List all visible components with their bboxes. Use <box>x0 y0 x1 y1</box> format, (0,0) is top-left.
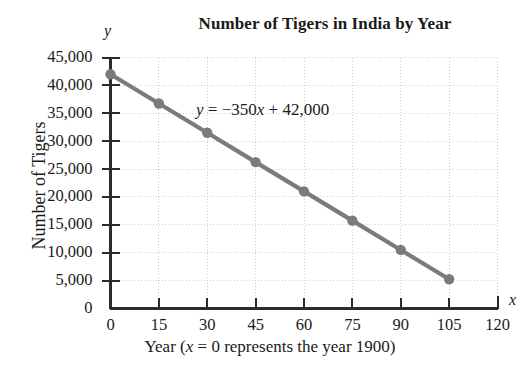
y-tick-label: 15,000 <box>15 216 93 233</box>
x-axis-caption-variable: x <box>186 337 194 356</box>
x-tick-label: 75 <box>326 317 378 334</box>
equation-intercept: 42,000 <box>282 100 329 119</box>
data-point-marker <box>444 274 454 284</box>
y-tick-label: 30,000 <box>15 133 93 150</box>
equation-plus: + <box>264 100 282 119</box>
equation-equals: = <box>204 100 222 119</box>
y-tick-label: 20,000 <box>15 188 93 205</box>
data-point-marker <box>396 245 406 255</box>
data-point-marker <box>105 69 115 79</box>
data-point-marker <box>202 128 212 138</box>
y-tick-label: 40,000 <box>15 77 93 94</box>
data-point-marker <box>154 98 164 108</box>
y-tick-label: 10,000 <box>15 244 93 261</box>
equation-lhs: y <box>196 100 204 119</box>
x-tick-label: 90 <box>375 317 427 334</box>
data-point-marker <box>250 157 260 167</box>
x-tick-label: 0 <box>85 317 137 334</box>
x-tick-label: 105 <box>423 317 475 334</box>
x-tick-label: 15 <box>133 317 185 334</box>
x-tick-label: 30 <box>181 317 233 334</box>
x-tick-marks <box>159 296 498 309</box>
x-tick-label: 60 <box>278 317 330 334</box>
vertical-gridlines <box>159 58 498 309</box>
y-tick-label: 35,000 <box>15 105 93 122</box>
data-point-marker <box>347 215 357 225</box>
x-tick-label: 120 <box>472 317 524 334</box>
y-tick-label: 45,000 <box>15 49 93 66</box>
x-axis-caption: Year (x = 0 represents the year 1900) <box>60 337 480 357</box>
data-point-marker <box>299 186 309 196</box>
y-tick-label: 25,000 <box>15 161 93 178</box>
equation-annotation: y = −350x + 42,000 <box>196 100 329 120</box>
y-tick-label: 0 <box>15 300 93 317</box>
x-tick-label: 45 <box>230 317 282 334</box>
equation-slope: −350 <box>222 100 257 119</box>
chart-figure: Number of Tigers in India by Year y x Nu… <box>0 0 532 366</box>
y-tick-label: 5,000 <box>15 272 93 289</box>
